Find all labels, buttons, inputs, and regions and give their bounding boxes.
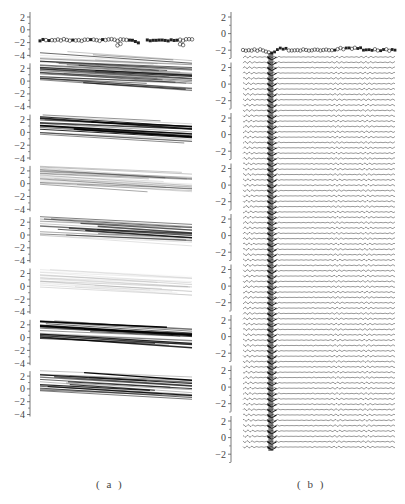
panel-a-subplot: 20−2−4 bbox=[14, 371, 192, 420]
panel-a-subplot: 20−2−4 bbox=[14, 268, 192, 317]
y-tick-label: −4 bbox=[14, 358, 25, 369]
y-tick-label: 0 bbox=[221, 129, 226, 140]
y-tick-label: −2 bbox=[14, 191, 25, 202]
y-tick-label: 0 bbox=[20, 178, 25, 189]
panel-b-subaxis: 20−2 bbox=[215, 315, 231, 362]
panel-b-top-trace bbox=[241, 46, 396, 54]
y-tick-label: −4 bbox=[14, 255, 25, 266]
figure-canvas: 20−2−420−2−420−2−420−2−420−2−420−2−420−2… bbox=[0, 0, 405, 504]
y-tick-label: 0 bbox=[20, 281, 25, 292]
panel-b-subaxis: 20−2 bbox=[215, 264, 231, 311]
dark-band bbox=[268, 53, 273, 451]
y-tick-label: 2 bbox=[20, 165, 25, 176]
y-tick-label: 2 bbox=[20, 12, 25, 23]
y-tick-label: 0 bbox=[221, 28, 226, 39]
y-tick-label: 2 bbox=[20, 371, 25, 382]
y-tick-label: −2 bbox=[14, 140, 25, 151]
panel-b-plot: 20−220−220−220−220−220−220−220−220−2 bbox=[215, 12, 396, 463]
panel-b-subaxis: 20−2 bbox=[215, 365, 231, 412]
y-tick-label: 2 bbox=[221, 365, 226, 376]
y-tick-label: 2 bbox=[221, 163, 226, 174]
y-tick-label: 2 bbox=[221, 214, 226, 225]
y-tick-label: −4 bbox=[14, 50, 25, 61]
panel-a-subplot: 20−2−4 bbox=[14, 165, 192, 214]
y-tick-label: −2 bbox=[215, 95, 226, 106]
y-tick-label: −2 bbox=[215, 449, 226, 460]
panel-b-subaxis: 20−2 bbox=[215, 113, 231, 160]
y-tick-label: 0 bbox=[221, 230, 226, 241]
y-tick-label: 0 bbox=[221, 281, 226, 292]
y-tick-label: −2 bbox=[14, 396, 25, 407]
y-tick-label: −4 bbox=[14, 204, 25, 215]
y-tick-label: 2 bbox=[221, 62, 226, 73]
y-tick-label: 2 bbox=[20, 319, 25, 330]
panel-a-plot: 20−2−420−2−420−2−420−2−420−2−420−2−420−2… bbox=[14, 12, 193, 421]
panel-b-subaxis: 20−2 bbox=[215, 163, 231, 210]
y-tick-label: 0 bbox=[20, 76, 25, 87]
y-tick-label: −2 bbox=[14, 37, 25, 48]
y-tick-label: 2 bbox=[221, 12, 226, 23]
y-tick-label: 0 bbox=[221, 432, 226, 443]
panel-a-subplot: 20−2−4 bbox=[14, 114, 192, 163]
y-tick-label: 0 bbox=[221, 79, 226, 90]
y-tick-label: 0 bbox=[20, 332, 25, 343]
y-tick-label: 2 bbox=[20, 268, 25, 279]
y-tick-label: −2 bbox=[215, 146, 226, 157]
y-tick-label: 0 bbox=[221, 382, 226, 393]
y-tick-label: −2 bbox=[215, 45, 226, 56]
y-tick-label: −4 bbox=[14, 153, 25, 164]
y-tick-label: 0 bbox=[20, 127, 25, 138]
y-tick-label: 2 bbox=[221, 113, 226, 124]
y-tick-label: −4 bbox=[14, 101, 25, 112]
y-tick-label: 2 bbox=[221, 416, 226, 427]
panel-a-subplot: 20−2−4 bbox=[14, 217, 192, 266]
y-tick-label: −2 bbox=[215, 247, 226, 258]
y-tick-label: −2 bbox=[215, 196, 226, 207]
y-tick-label: 2 bbox=[221, 264, 226, 275]
y-tick-label: −2 bbox=[14, 242, 25, 253]
y-tick-label: 0 bbox=[221, 180, 226, 191]
y-tick-label: −2 bbox=[215, 398, 226, 409]
y-tick-label: −4 bbox=[14, 409, 25, 420]
panel-b-subaxis: 20−2 bbox=[215, 12, 231, 59]
y-tick-label: −2 bbox=[14, 88, 25, 99]
y-tick-label: −4 bbox=[14, 306, 25, 317]
panel-b-subaxis: 20−2 bbox=[215, 416, 231, 463]
y-tick-label: 2 bbox=[221, 315, 226, 326]
y-tick-label: 0 bbox=[20, 24, 25, 35]
y-tick-label: −2 bbox=[14, 345, 25, 356]
panel-b-subaxis: 20−2 bbox=[215, 62, 231, 109]
y-tick-label: 2 bbox=[20, 217, 25, 228]
panel-b-subaxis: 20−2 bbox=[215, 214, 231, 261]
y-tick-label: −2 bbox=[215, 297, 226, 308]
caption-b: ( b ) bbox=[297, 478, 325, 490]
y-tick-label: −2 bbox=[215, 348, 226, 359]
y-tick-label: 2 bbox=[20, 114, 25, 125]
panel-b-traces bbox=[243, 53, 395, 451]
y-tick-label: −2 bbox=[14, 294, 25, 305]
y-tick-label: 2 bbox=[20, 63, 25, 74]
panel-a-subplot: 20−2−4 bbox=[14, 319, 192, 368]
y-tick-label: 0 bbox=[221, 331, 226, 342]
y-tick-label: 0 bbox=[20, 230, 25, 241]
caption-a: ( a ) bbox=[96, 478, 124, 490]
y-tick-label: 0 bbox=[20, 383, 25, 394]
